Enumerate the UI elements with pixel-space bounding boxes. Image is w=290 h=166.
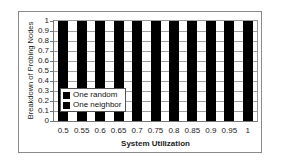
x-axis-label: System Utilization <box>53 139 258 148</box>
bar-one-neighbor <box>132 21 142 121</box>
y-tick-label: 0.5 <box>38 67 49 75</box>
y-tick-label: 0 <box>45 117 49 125</box>
y-tick-label: 1 <box>45 17 49 25</box>
y-tick-label: 0.7 <box>38 47 49 55</box>
x-tick-label: 0.55 <box>72 127 92 135</box>
bar-one-neighbor <box>187 21 197 121</box>
x-tick-label: 0.9 <box>201 127 221 135</box>
y-tick-label: 0.4 <box>38 77 49 85</box>
bar-one-neighbor <box>151 21 161 121</box>
legend-item-one-random: One random <box>63 90 123 100</box>
bar-one-neighbor <box>169 21 179 121</box>
bar-one-neighbor <box>206 21 216 121</box>
y-tick-label: 0.2 <box>38 97 49 105</box>
y-tick-label: 0.6 <box>38 57 49 65</box>
y-axis-label: Breakdown of Probing Nodes <box>26 19 35 123</box>
legend-label: One random <box>73 90 117 100</box>
x-tick-label: 0.7 <box>127 127 147 135</box>
bar-one-neighbor <box>243 21 253 121</box>
y-tick-label: 0.8 <box>38 37 49 45</box>
x-tick-label: 0.5 <box>53 127 73 135</box>
legend-label: One neighbor <box>73 100 121 110</box>
y-tick-label: 0.3 <box>38 87 49 95</box>
legend: One random One neighbor <box>60 88 126 112</box>
x-tick-label: 0.85 <box>182 127 202 135</box>
x-tick-label: 0.8 <box>164 127 184 135</box>
x-tick-label: 0.75 <box>146 127 166 135</box>
y-tick-label: 0.1 <box>38 107 49 115</box>
legend-item-one-neighbor: One neighbor <box>63 100 123 110</box>
legend-swatch-one-neighbor <box>63 102 70 109</box>
x-tick-label: 1 <box>238 127 258 135</box>
x-tick-label: 0.6 <box>90 127 110 135</box>
y-tick-label: 0.9 <box>38 27 49 35</box>
bar-one-neighbor <box>224 21 234 121</box>
legend-swatch-one-random <box>63 92 70 99</box>
x-tick-label: 0.95 <box>219 127 239 135</box>
x-tick-label: 0.65 <box>109 127 129 135</box>
